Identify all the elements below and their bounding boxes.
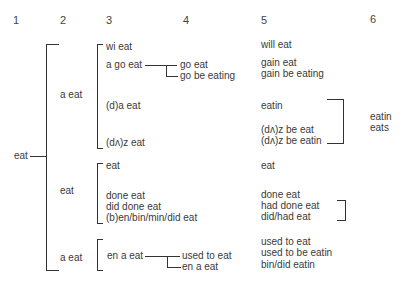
col5-item: had done eat <box>261 200 319 211</box>
column-header-2: 2 <box>60 14 66 26</box>
col5-item: (dʌ)z be eat <box>261 124 314 135</box>
col5-item: eat <box>261 160 275 171</box>
col5-item: gain eat <box>261 57 297 68</box>
col3-group3-bracket-bottom <box>97 270 103 271</box>
go-branch-lower <box>166 76 178 77</box>
col5-item: done eat <box>261 189 300 200</box>
column-header-1: 1 <box>13 14 19 26</box>
col5-item: (dʌ)z be eatin <box>261 135 322 146</box>
col4-item: go eat <box>180 59 208 70</box>
en-branch-fork <box>167 256 168 267</box>
col3-group2-bracket-top <box>97 163 103 164</box>
col3-group2-bracket <box>97 163 98 224</box>
main-bracket-bottom <box>46 270 59 271</box>
col3-group1-bracket-top <box>97 44 103 45</box>
col3-item: (b)en/bin/min/did eat <box>106 212 197 223</box>
col3-item: done eat <box>106 190 145 201</box>
col3-item: did done eat <box>106 201 161 212</box>
col5-item: will eat <box>261 39 292 50</box>
col5-bracket2-bottom <box>337 220 346 221</box>
col3-group2-bracket-bottom <box>97 223 103 224</box>
col4-item: en a eat <box>182 261 218 272</box>
col4-item: used to eat <box>182 250 231 261</box>
col2-label-1: a eat <box>60 89 82 100</box>
col3-item: a go eat <box>106 59 142 70</box>
column-header-5: 5 <box>261 14 267 26</box>
col2-label-3: a eat <box>60 252 82 263</box>
root-label: eat <box>14 150 28 161</box>
col5-bracket1 <box>343 99 344 144</box>
col3-group1-bracket <box>97 44 98 149</box>
root-connector <box>30 156 46 157</box>
col6-item: eats <box>370 122 389 133</box>
col3-item: en a eat <box>107 250 143 261</box>
col5-item: used to be eatin <box>261 247 332 258</box>
column-header-6: 6 <box>370 13 376 25</box>
col5-item: did/had eat <box>261 211 311 222</box>
go-branch-fork <box>166 65 167 76</box>
en-branch-connector <box>145 256 180 257</box>
col5-bracket1-bottom <box>327 143 344 144</box>
main-bracket-top <box>46 44 59 45</box>
col3-item: wi eat <box>106 41 132 52</box>
col3-item: (dʌ)z eat <box>106 137 145 148</box>
col5-bracket1-top <box>327 99 344 100</box>
col6-item: eatin <box>370 111 392 122</box>
col5-bracket2 <box>345 200 346 221</box>
col3-item: (d)a eat <box>106 100 140 111</box>
col5-item: gain be eating <box>261 68 324 79</box>
col3-item: eat <box>106 160 120 171</box>
col3-group1-bracket-bottom <box>97 148 103 149</box>
col3-group3-bracket-top <box>97 239 103 240</box>
column-header-3: 3 <box>106 14 112 26</box>
go-branch-connector <box>145 65 177 66</box>
col5-item: bin/did eatin <box>261 259 315 270</box>
col5-item: used to eat <box>261 236 310 247</box>
en-branch-lower <box>167 267 181 268</box>
col5-item: eatin <box>261 100 283 111</box>
main-bracket <box>46 44 47 271</box>
col2-label-2: eat <box>60 185 74 196</box>
column-header-4: 4 <box>183 14 189 26</box>
col3-group3-bracket <box>97 239 98 271</box>
col4-item: go be eating <box>180 70 235 81</box>
